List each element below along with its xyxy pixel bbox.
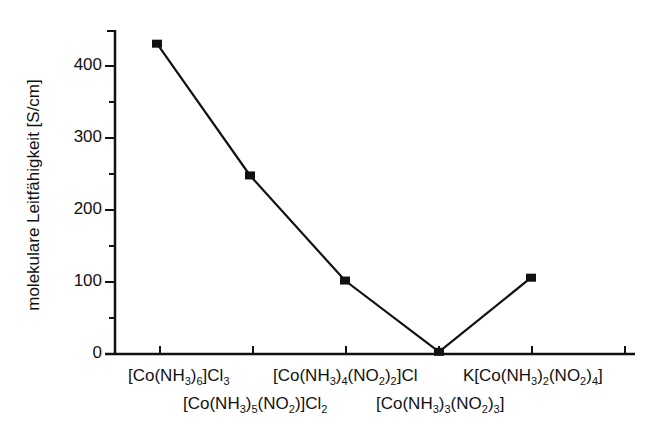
- y-tick-label: 300: [52, 127, 102, 147]
- data-markers: [152, 40, 536, 356]
- y-tick-label: 100: [52, 271, 102, 291]
- data-point-marker: [434, 348, 444, 356]
- data-point-marker: [526, 274, 536, 282]
- x-label-co-nh3-3-no2-3: [Co(NH3)3(NO2)3]: [376, 394, 504, 415]
- y-ticks: [105, 66, 115, 354]
- y-tick-label: 200: [52, 199, 102, 219]
- data-point-marker: [152, 40, 162, 48]
- data-point-marker: [340, 277, 350, 285]
- data-point-marker: [245, 171, 255, 179]
- x-label-co-nh3-6-cl3: [Co(NH3)6]Cl3: [128, 366, 230, 387]
- x-label-co-nh3-5-no2-cl2: [Co(NH3)5(NO2)]Cl2: [183, 394, 327, 415]
- y-tick-label: 0: [52, 343, 102, 363]
- x-label-k-co-nh3-2-no2-4: K[Co(NH3)2(NO2)4]: [463, 366, 603, 387]
- x-label-co-nh3-4-no2-2-cl: [Co(NH3)4(NO2)2]Cl: [273, 366, 417, 387]
- y-tick-label: 400: [52, 55, 102, 75]
- series-line: [157, 44, 531, 352]
